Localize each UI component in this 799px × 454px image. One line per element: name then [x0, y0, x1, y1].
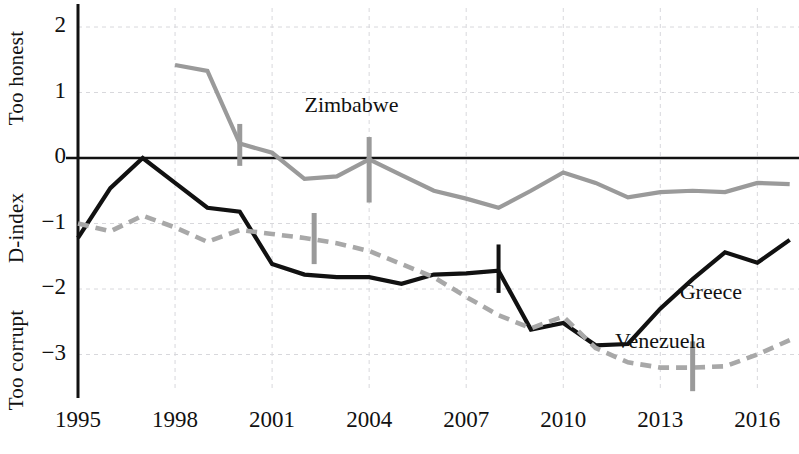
chart-container: Too honest D-index Too corrupt 210−1−2−3… [0, 0, 799, 454]
y-tick-label: −1 [0, 210, 66, 233]
series-label-greece: Greece [680, 279, 742, 305]
x-tick-label: 2010 [518, 408, 608, 431]
x-tick-label: 1995 [33, 408, 123, 431]
data-series-layer [78, 65, 790, 368]
plot-area [0, 0, 799, 454]
x-tick-label: 1998 [130, 408, 220, 431]
series-label-venezuela: Venezuela [615, 328, 705, 354]
series-line-zimbabwe [175, 65, 790, 208]
x-tick-label: 2004 [324, 408, 414, 431]
y-tick-label: 2 [0, 13, 66, 36]
x-tick-label: 2007 [421, 408, 511, 431]
y-tick-label: −2 [0, 275, 66, 298]
series-line-greece [78, 158, 790, 345]
y-tick-label: −3 [0, 341, 66, 364]
series-label-zimbabwe: Zimbabwe [304, 92, 398, 118]
y-tick-label: 0 [0, 144, 66, 167]
y-tick-label: 1 [0, 79, 66, 102]
x-tick-label: 2013 [615, 408, 705, 431]
x-tick-label: 2001 [227, 408, 317, 431]
x-tick-label: 2016 [712, 408, 799, 431]
